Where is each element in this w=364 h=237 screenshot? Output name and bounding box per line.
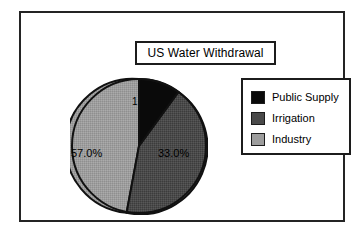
legend-swatch-public-supply — [251, 91, 265, 104]
legend-swatch-industry — [251, 133, 265, 146]
legend-item-industry: Industry — [251, 129, 349, 150]
chart-frame: US Water Withdrawal — [19, 11, 345, 222]
pie-chart — [70, 77, 208, 215]
chart-canvas: US Water Withdrawal — [0, 0, 364, 237]
pie-label-public-supply: 1 — [132, 96, 138, 107]
page-title: US Water Withdrawal — [147, 46, 263, 60]
legend-item-irrigation: Irrigation — [251, 108, 349, 129]
legend-label-irrigation: Irrigation — [272, 113, 315, 124]
pie-slice-industry — [70, 79, 139, 213]
pie-chart-svg — [70, 77, 208, 215]
chart-title-box: US Water Withdrawal — [135, 41, 276, 65]
chart-legend: Public Supply Irrigation Industry — [241, 78, 351, 155]
legend-label-public-supply: Public Supply — [272, 92, 339, 103]
legend-label-industry: Industry — [272, 134, 311, 145]
legend-swatch-irrigation — [251, 112, 265, 125]
legend-item-public-supply: Public Supply — [251, 87, 349, 108]
pie-label-industry: 57.0% — [71, 147, 102, 159]
pie-label-irrigation: 33.0% — [158, 147, 189, 159]
